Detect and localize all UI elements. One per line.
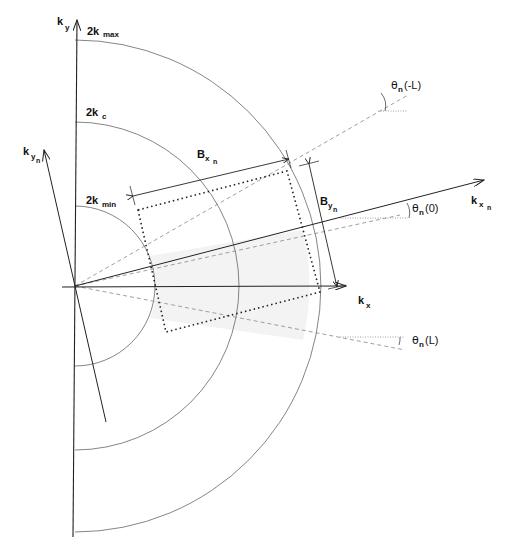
svg-text:(0): (0) bbox=[425, 202, 438, 214]
label-theta-neg-L: θ n (-L) bbox=[391, 79, 421, 94]
label-theta-0: θ n (0) bbox=[412, 202, 438, 217]
svg-text:B: B bbox=[197, 148, 205, 160]
svg-text:k: k bbox=[471, 194, 478, 206]
svg-text:2k: 2k bbox=[86, 106, 99, 118]
bxn-dimension bbox=[133, 159, 289, 196]
svg-text:y: y bbox=[65, 23, 70, 32]
arc-2kmin bbox=[75, 206, 155, 366]
svg-text:k: k bbox=[23, 145, 30, 157]
svg-text:(-L): (-L) bbox=[404, 79, 421, 91]
svg-text:θ: θ bbox=[412, 334, 419, 347]
svg-text:(L): (L) bbox=[425, 334, 438, 346]
label-theta-L: θ n (L) bbox=[412, 334, 438, 349]
svg-text:min: min bbox=[102, 200, 116, 209]
label-byn: B y n bbox=[320, 195, 337, 213]
svg-text:n: n bbox=[419, 340, 424, 349]
svg-text:x: x bbox=[366, 301, 371, 310]
label-ky: k y bbox=[57, 15, 70, 32]
angle-arc-L bbox=[399, 337, 400, 345]
svg-text:c: c bbox=[102, 112, 107, 121]
svg-text:n: n bbox=[36, 157, 40, 164]
svg-text:n: n bbox=[213, 158, 217, 165]
label-kyn: k y n bbox=[23, 145, 40, 164]
angle-arc-0 bbox=[407, 203, 410, 218]
shaded-sampling-region bbox=[150, 230, 309, 340]
kyn-axis bbox=[44, 150, 106, 422]
svg-text:B: B bbox=[320, 195, 328, 207]
svg-text:θ: θ bbox=[412, 202, 419, 215]
label-kxn: k x n bbox=[471, 194, 491, 211]
svg-text:x: x bbox=[205, 154, 210, 163]
label-2kmax: 2k max bbox=[87, 25, 120, 39]
label-2kc: 2k c bbox=[86, 106, 107, 121]
svg-text:2k: 2k bbox=[87, 25, 100, 37]
svg-text:2k: 2k bbox=[86, 194, 99, 206]
svg-text:n: n bbox=[487, 204, 491, 211]
svg-text:max: max bbox=[103, 30, 120, 39]
svg-text:n: n bbox=[419, 208, 424, 217]
svg-text:n: n bbox=[333, 206, 337, 213]
label-2kmin: 2k min bbox=[86, 194, 116, 209]
svg-text:θ: θ bbox=[391, 79, 398, 92]
label-kx: k x bbox=[358, 294, 371, 310]
svg-text:k: k bbox=[358, 294, 365, 306]
label-bxn: B x n bbox=[197, 148, 217, 165]
k-space-diagram: k y 2k max 2k c 2k min k y n B x n B y n… bbox=[0, 0, 511, 551]
svg-text:x: x bbox=[479, 200, 484, 209]
svg-text:k: k bbox=[57, 15, 64, 27]
svg-text:n: n bbox=[398, 85, 403, 94]
